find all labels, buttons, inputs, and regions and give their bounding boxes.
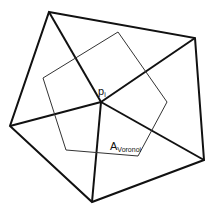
- diagram-svg: [0, 0, 212, 210]
- area-label: AVoronoi: [110, 141, 141, 153]
- outer-polygon: [10, 12, 204, 202]
- point-label: pi: [98, 86, 106, 98]
- voronoi-diagram: pi AVoronoi: [0, 0, 212, 210]
